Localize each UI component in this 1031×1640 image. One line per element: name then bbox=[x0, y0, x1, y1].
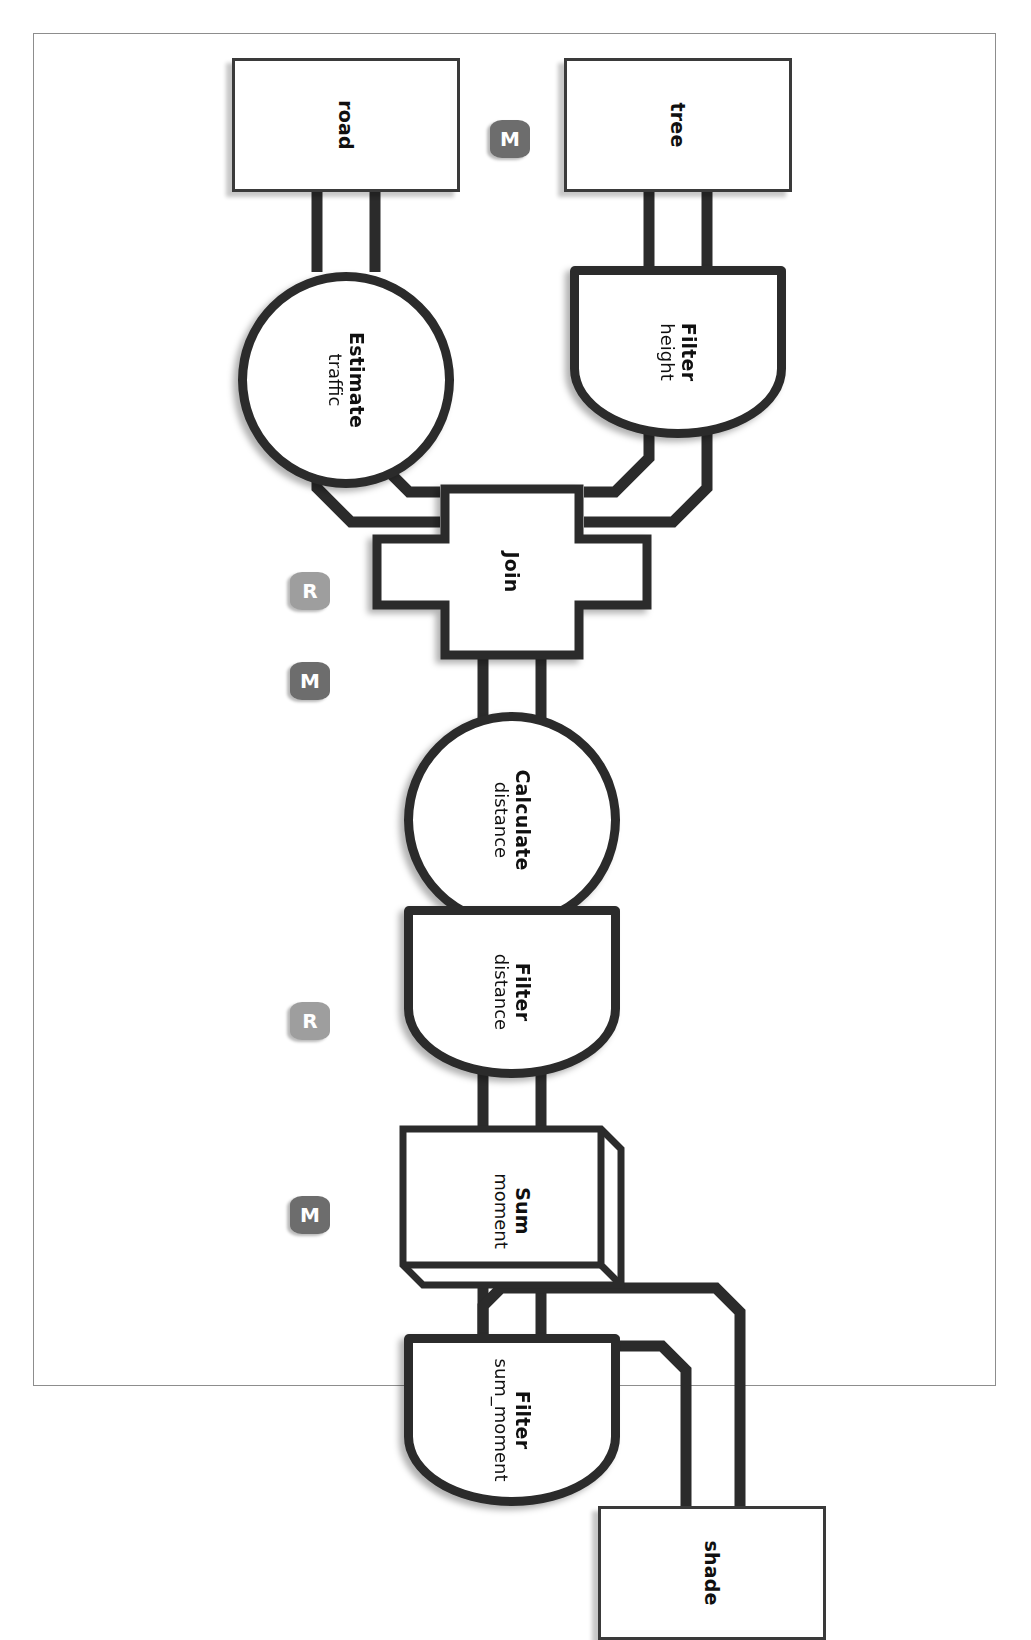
node-filter-height[interactable]: Filter height bbox=[570, 266, 786, 438]
node-road[interactable]: road bbox=[232, 58, 460, 192]
node-join[interactable]: Join bbox=[372, 484, 652, 660]
node-estimate-traffic[interactable]: Estimate traffic bbox=[238, 272, 454, 488]
node-calculate-distance-label: Calculate distance bbox=[490, 721, 534, 919]
node-filter-distance-label: Filter distance bbox=[490, 915, 534, 1069]
node-shade-label: shade bbox=[701, 1509, 723, 1637]
node-sum-moment[interactable]: Sum moment bbox=[398, 1124, 626, 1290]
node-road-label: road bbox=[335, 61, 357, 189]
badge-filter-sum-map-label: M bbox=[300, 1205, 320, 1225]
node-tree[interactable]: tree bbox=[564, 58, 792, 192]
node-filter-sum-moment[interactable]: Filter sum_moment bbox=[404, 1334, 620, 1506]
badge-tree-map[interactable]: M bbox=[490, 120, 530, 158]
badge-sum-reduce-label: R bbox=[302, 1011, 317, 1031]
node-sum-moment-label: Sum moment bbox=[490, 1146, 534, 1276]
badge-sum-reduce[interactable]: R bbox=[290, 1002, 330, 1040]
node-estimate-traffic-label: Estimate traffic bbox=[324, 281, 368, 479]
badge-calculate-map-label: M bbox=[300, 671, 320, 691]
node-tree-label: tree bbox=[667, 61, 689, 189]
node-calculate-distance[interactable]: Calculate distance bbox=[404, 712, 620, 928]
badge-calculate-map[interactable]: M bbox=[290, 662, 330, 700]
badge-join-reduce-label: R bbox=[302, 581, 317, 601]
node-filter-distance[interactable]: Filter distance bbox=[404, 906, 620, 1078]
node-shade[interactable]: shade bbox=[598, 1506, 826, 1640]
node-join-label: Join bbox=[501, 484, 523, 660]
badge-filter-sum-map[interactable]: M bbox=[290, 1196, 330, 1234]
node-filter-sum-moment-label: Filter sum_moment bbox=[490, 1343, 534, 1497]
node-filter-height-label: Filter height bbox=[656, 275, 700, 429]
badge-tree-map-label: M bbox=[500, 129, 520, 149]
diagram-canvas: tree road Filter height Estimate traffic bbox=[42, 44, 982, 1384]
badge-join-reduce[interactable]: R bbox=[290, 572, 330, 610]
